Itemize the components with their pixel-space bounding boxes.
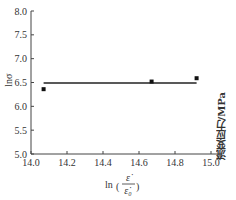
y-tick-label: 7.5 <box>15 29 28 40</box>
x-tick-label: 14.4 <box>94 157 112 168</box>
y-tick-label: 7.0 <box>15 53 28 64</box>
svg-text:ε̇: ε̇ <box>126 172 133 183</box>
x-tick-label: 14.2 <box>58 157 76 168</box>
right-axis-label: 流变应力/MPa <box>214 92 229 160</box>
x-tick-label: 14.6 <box>130 157 148 168</box>
data-point <box>150 80 154 84</box>
data-point <box>42 87 46 91</box>
y-tick-label: 8.0 <box>15 6 28 17</box>
svg-text:ln: ln <box>105 179 113 190</box>
x-axis-label: ln(ε̇ε̇₀) <box>105 172 139 196</box>
svg-text:): ) <box>136 181 139 193</box>
x-tick-label: 14.0 <box>22 157 40 168</box>
svg-text:(: ( <box>116 181 120 193</box>
svg-text:ε̇₀: ε̇₀ <box>124 185 132 196</box>
y-tick-label: 6.0 <box>15 101 28 112</box>
chart: 5.05.56.06.57.07.58.014.014.214.414.614.… <box>0 0 236 200</box>
y-tick-label: 6.5 <box>15 77 28 88</box>
y-axis-label: lnσ <box>3 73 14 87</box>
x-tick-label: 14.8 <box>166 157 184 168</box>
data-point <box>195 76 199 80</box>
y-tick-label: 5.5 <box>15 125 28 136</box>
